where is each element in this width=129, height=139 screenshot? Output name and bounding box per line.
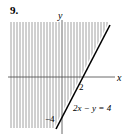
- problem-number: 9.: [10, 4, 19, 16]
- x-axis-label: x: [116, 72, 122, 83]
- equation-label: 2x − y = 4: [73, 103, 112, 113]
- y-intercept-label: −4: [45, 114, 55, 124]
- y-axis-label: y: [57, 10, 63, 21]
- x-intercept-label: 2: [79, 82, 84, 92]
- inequality-graph: 9. y x 2 −4 2x − y = 4: [0, 0, 129, 139]
